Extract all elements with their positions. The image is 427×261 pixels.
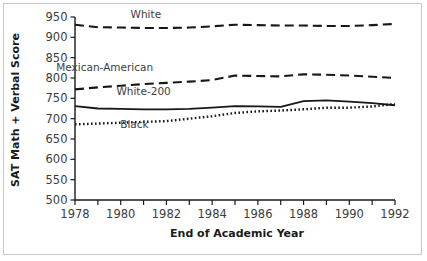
y-tick-label: 500 [46,193,68,207]
y-tick-label: 950 [46,10,68,24]
axes [71,17,396,205]
x-tick-label: 1978 [60,207,89,221]
series-line-white [75,24,395,28]
y-axis-title: SAT Math + Verbal Score [9,33,22,187]
series-label-white: White [131,8,162,20]
y-tick-label: 550 [46,173,68,187]
x-axis-title: End of Academic Year [170,227,304,240]
series-label-white-200: White-200 [116,85,170,97]
y-tick-label: 600 [46,152,68,166]
x-tick-label: 1986 [243,207,272,221]
series-label-mexican-american: Mexican-American [56,61,153,73]
y-tick-label: 750 [46,91,68,105]
y-tick-label: 900 [46,30,68,44]
x-tick-labels: 19781980198219841986198819901992 [60,207,409,221]
x-tick-label: 1982 [152,207,181,221]
data-series [75,24,395,124]
series-annotations: WhiteMexican-AmericanWhite-200Black [56,8,170,131]
y-tick-labels: 500550600650700750800850900950 [46,10,68,207]
chart-canvas: 500550600650700750800850900950 197819801… [0,0,427,261]
x-tick-label: 1992 [380,207,409,221]
x-tick-label: 1984 [198,207,227,221]
y-tick-label: 700 [46,112,68,126]
y-tick-label: 650 [46,132,68,146]
x-tick-marks [75,200,395,205]
y-tick-label: 800 [46,71,68,85]
x-tick-label: 1990 [335,207,364,221]
series-label-black: Black [120,118,149,130]
x-tick-label: 1988 [289,207,318,221]
x-tick-label: 1980 [106,207,135,221]
sat-score-line-chart: 500550600650700750800850900950 197819801… [0,0,427,261]
